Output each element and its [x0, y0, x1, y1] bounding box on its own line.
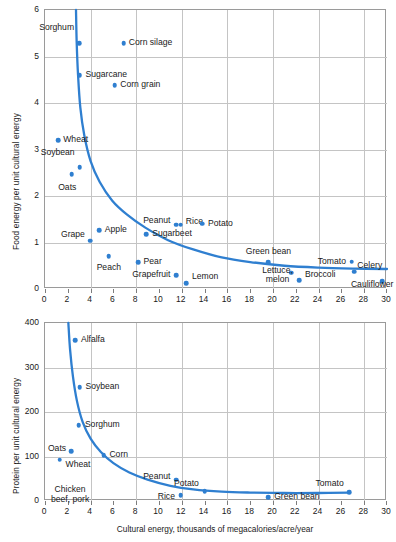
- x-tick-label: 18: [239, 506, 259, 516]
- x-tick-mark: [319, 289, 320, 293]
- x-tick-label: 22: [285, 294, 305, 304]
- data-point: [184, 281, 189, 286]
- data-point-label: Green bean: [274, 492, 319, 502]
- data-point: [347, 490, 352, 495]
- y-tick-label: 300: [11, 362, 39, 372]
- x-tick-label: 4: [80, 294, 100, 304]
- data-point-label: Cauliflower: [351, 281, 394, 291]
- x-tick-label: 28: [353, 294, 373, 304]
- data-point-label: Grape: [61, 230, 85, 240]
- x-tick-mark: [273, 501, 274, 505]
- data-point: [266, 495, 271, 500]
- x-tick-mark: [386, 501, 387, 505]
- x-tick-mark: [273, 289, 274, 293]
- data-point-label: Celery: [357, 261, 382, 271]
- x-tick-mark: [182, 289, 183, 293]
- data-point: [202, 489, 207, 494]
- data-point-label: Potato: [208, 219, 233, 229]
- x-tick-mark: [113, 289, 114, 293]
- y-tick-label: 1: [11, 237, 39, 247]
- y-tick-label: 3: [11, 144, 39, 154]
- data-point: [107, 254, 112, 259]
- chart-food-energy: Food energy per unit cultural energy Sor…: [0, 0, 396, 310]
- data-point-label: Sugarbeet: [152, 229, 192, 239]
- x-tick-mark: [296, 501, 297, 505]
- x-tick-mark: [113, 501, 114, 505]
- x-tick-mark: [250, 501, 251, 505]
- data-point-label: Rice: [158, 492, 175, 502]
- data-point: [136, 260, 141, 265]
- data-point-label: Apple: [105, 226, 127, 236]
- data-point-label: Oats: [48, 445, 66, 455]
- x-tick-label: 10: [148, 506, 168, 516]
- data-point: [178, 223, 183, 228]
- y-axis-label-bottom: Protein per unit cultural energy: [11, 378, 21, 494]
- x-tick-mark: [91, 501, 92, 505]
- data-point: [349, 259, 354, 264]
- data-point-label: Corn: [109, 450, 128, 460]
- x-tick-label: 16: [216, 506, 236, 516]
- y-tick-label: 4: [11, 97, 39, 107]
- data-point-label: Corn grain: [120, 81, 160, 91]
- x-tick-label: 26: [330, 294, 350, 304]
- x-tick-label: 12: [171, 506, 191, 516]
- x-axis-label: Cultural energy, thousands of megacalori…: [44, 524, 386, 534]
- x-tick-mark: [136, 501, 137, 505]
- y-tick-label: 400: [11, 317, 39, 327]
- data-point-label: Grapefruit: [132, 270, 170, 280]
- data-point-label: Lettuce,melon: [262, 265, 293, 284]
- y-tick-label: 5: [11, 51, 39, 61]
- plot-area-top: SorghumCorn silageSugarcaneCorn grainWhe…: [44, 9, 386, 288]
- data-point: [77, 165, 82, 170]
- data-point-label: Oats: [58, 183, 76, 193]
- data-point: [77, 41, 82, 46]
- x-tick-mark: [364, 501, 365, 505]
- y-axis-label-top: Food energy per unit cultural energy: [11, 113, 21, 250]
- data-point: [174, 273, 179, 278]
- data-point: [69, 172, 74, 177]
- x-tick-mark: [205, 289, 206, 293]
- x-tick-mark: [45, 289, 46, 293]
- x-tick-label: 24: [308, 294, 328, 304]
- x-tick-label: 8: [125, 506, 145, 516]
- y-tick-label: 0: [11, 495, 39, 505]
- data-point: [76, 423, 81, 428]
- data-point-label: Alfalfa: [81, 335, 105, 345]
- x-tick-label: 8: [125, 294, 145, 304]
- data-point: [121, 41, 126, 46]
- data-point-label: Pear: [144, 258, 162, 268]
- data-point: [69, 449, 74, 454]
- x-tick-mark: [91, 289, 92, 293]
- x-tick-label: 2: [57, 506, 77, 516]
- x-tick-label: 20: [262, 506, 282, 516]
- data-point: [58, 457, 63, 462]
- x-tick-label: 16: [216, 294, 236, 304]
- x-tick-mark: [205, 501, 206, 505]
- x-tick-label: 18: [239, 294, 259, 304]
- x-tick-mark: [182, 501, 183, 505]
- x-tick-mark: [227, 501, 228, 505]
- fitted-curve: [45, 10, 387, 289]
- x-tick-label: 20: [262, 294, 282, 304]
- y-tick-label: 200: [11, 406, 39, 416]
- x-tick-label: 0: [34, 294, 54, 304]
- x-tick-mark: [296, 289, 297, 293]
- data-point-label: Sugarcane: [85, 70, 127, 80]
- x-tick-mark: [319, 501, 320, 505]
- x-tick-mark: [250, 289, 251, 293]
- data-point-label: Soybean: [41, 148, 75, 158]
- x-tick-label: 30: [376, 506, 396, 516]
- data-point-label: Green bean: [246, 248, 291, 258]
- x-tick-mark: [341, 501, 342, 505]
- x-tick-label: 6: [102, 506, 122, 516]
- y-tick-label: 100: [11, 451, 39, 461]
- x-tick-label: 10: [148, 294, 168, 304]
- x-tick-label: 24: [308, 506, 328, 516]
- data-point-label: Sorghum: [85, 421, 120, 431]
- data-point-label: Peanut: [143, 472, 170, 482]
- data-point: [73, 338, 78, 343]
- x-tick-mark: [227, 289, 228, 293]
- data-point: [297, 278, 302, 283]
- data-point-label: Chickenbeef, pork: [51, 485, 89, 504]
- x-tick-label: 28: [353, 506, 373, 516]
